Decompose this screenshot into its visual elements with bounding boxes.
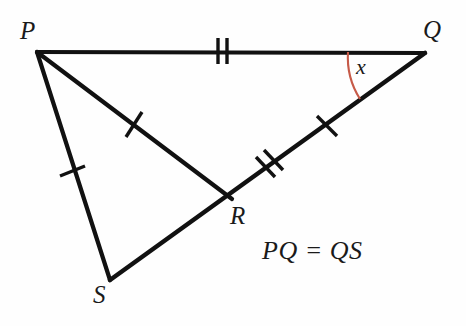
vertex-label-r: R [230, 203, 245, 228]
tick-mark-group [60, 38, 337, 177]
segment-group [37, 52, 425, 280]
tick-pr [126, 112, 142, 137]
segment-pq [37, 52, 425, 53]
geometry-diagram: P Q R S x PQ = QS [0, 0, 466, 326]
diagram-canvas [0, 0, 466, 326]
vertex-label-p: P [20, 18, 35, 43]
segment-ps [37, 52, 110, 280]
relation-annotation: PQ = QS [262, 238, 362, 264]
vertex-label-q: Q [423, 17, 441, 42]
angle-label-x: x [356, 56, 366, 78]
vertex-label-s: S [93, 282, 106, 307]
